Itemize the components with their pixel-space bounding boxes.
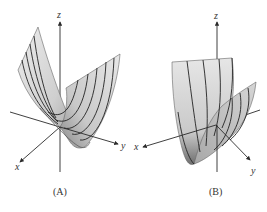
panel-a-surface-right bbox=[60, 54, 120, 148]
figure-canvas: z y x (A) z x y (B) bbox=[0, 0, 267, 212]
panel-a-x-axis bbox=[20, 127, 60, 162]
panel-b-y-label: y bbox=[250, 165, 256, 176]
panel-a-x-label: x bbox=[14, 161, 20, 172]
panel-a-z-label: z bbox=[56, 9, 61, 20]
panel-a: z y x (A) bbox=[10, 9, 126, 198]
panel-b: z x y (B) bbox=[133, 10, 260, 198]
panel-b-x-label: x bbox=[133, 141, 139, 152]
panel-a-y-label: y bbox=[120, 140, 126, 151]
panel-a-caption: (A) bbox=[53, 186, 67, 198]
panel-b-caption: (B) bbox=[209, 186, 222, 198]
panel-b-z-label: z bbox=[213, 10, 218, 21]
